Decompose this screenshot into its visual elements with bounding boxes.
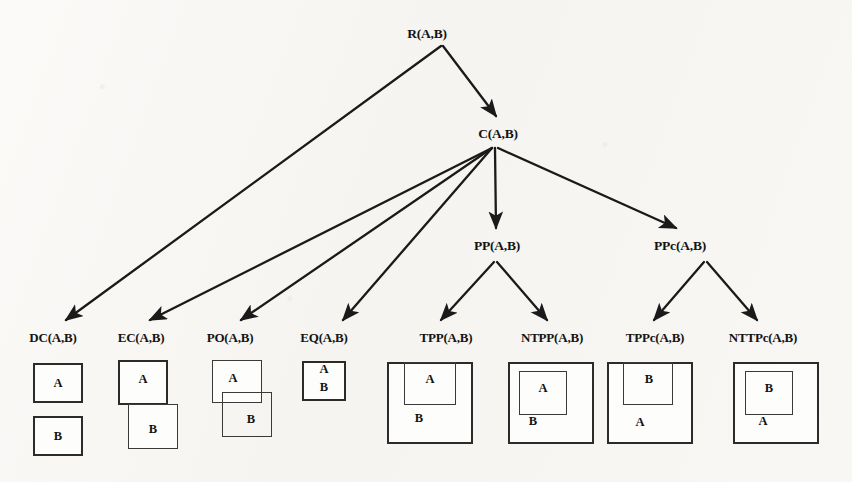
tpp-label-a: A	[425, 372, 434, 387]
po-label-b: B	[247, 412, 255, 427]
dc-label-a: A	[53, 376, 62, 391]
ntpp-label-b: B	[529, 414, 537, 429]
tppc-label-a: A	[635, 415, 644, 430]
ec-label-a: A	[138, 372, 147, 387]
eq-label-a: A	[319, 362, 328, 377]
edge-root-to-dc	[66, 46, 441, 320]
edge-ppc-to-tppc	[654, 262, 704, 320]
leaf-label-eq: EQ(A,B)	[300, 330, 347, 346]
dc-label-b: B	[54, 429, 62, 444]
nttpc-label-a: A	[758, 414, 767, 429]
node-ppc: PPc(A,B)	[654, 238, 706, 254]
node-pp: PP(A,B)	[474, 238, 520, 254]
po-label-a: A	[228, 371, 237, 386]
ec-label-b: B	[149, 422, 157, 437]
tpp-label-b: B	[415, 411, 423, 426]
node-connected: C(A,B)	[478, 126, 518, 142]
edge-connected-to-ppc	[498, 148, 676, 228]
leaf-label-nttpc: NTTPc(A,B)	[729, 330, 797, 346]
leaf-label-ntpp: NTPP(A,B)	[521, 330, 583, 346]
edge-ppc-to-nttpc	[707, 262, 757, 320]
leaf-label-po: PO(A,B)	[207, 330, 254, 346]
node-root: R(A,B)	[407, 26, 447, 42]
leaf-label-tpp: TPP(A,B)	[420, 330, 473, 346]
edge-pp-to-ntpp	[497, 262, 547, 320]
leaf-label-tppc: TPPc(A,B)	[626, 330, 685, 346]
ntpp-label-a: A	[538, 381, 547, 396]
leaf-label-dc: DC(A,B)	[29, 330, 76, 346]
edge-connected-to-pp	[495, 148, 496, 228]
leaf-label-ec: EC(A,B)	[118, 330, 165, 346]
nttpc-label-b: B	[765, 381, 773, 396]
edge-pp-to-tpp	[441, 262, 494, 320]
tppc-label-b: B	[645, 372, 653, 387]
diagram-canvas: R(A,B) C(A,B) PP(A,B) PPc(A,B) DC(A,B) E…	[0, 0, 852, 482]
eq-label-b: B	[320, 380, 328, 395]
edge-root-to-connected	[443, 46, 496, 116]
edge-connected-to-ec	[150, 148, 492, 320]
